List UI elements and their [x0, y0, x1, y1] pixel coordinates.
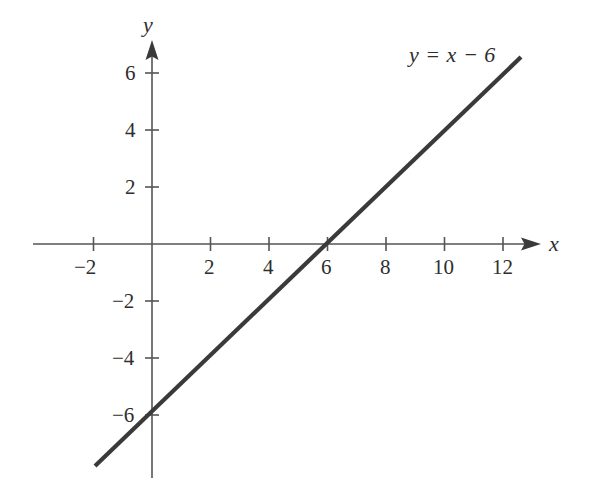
- y-axis-label: y: [143, 14, 153, 36]
- x-tick-label-6: 6: [321, 257, 332, 278]
- x-axis-label: x: [549, 233, 559, 255]
- graph-figure: −2 2 4 6 8 10 12 6 4 2 −2 −4 −6 x y y = …: [0, 0, 589, 495]
- coordinate-plane: [0, 0, 589, 495]
- x-tick-label-4: 4: [263, 257, 274, 278]
- x-tick-label-10: 10: [433, 257, 454, 278]
- y-tick-label--4: −4: [112, 348, 134, 369]
- y-tick-label--2: −2: [112, 291, 134, 312]
- x-tick-label-8: 8: [380, 257, 391, 278]
- x-tick-label-12: 12: [492, 257, 513, 278]
- line-y-equals-x-minus-6: [95, 57, 521, 466]
- y-tick-label-6: 6: [125, 63, 136, 84]
- y-tick-label--6: −6: [112, 405, 134, 426]
- x-tick-label-2: 2: [204, 257, 215, 278]
- y-tick-label-4: 4: [125, 120, 136, 141]
- y-tick-label-2: 2: [125, 177, 136, 198]
- x-tick-label--2: −2: [74, 257, 96, 278]
- equation-label: y = x − 6: [409, 44, 496, 66]
